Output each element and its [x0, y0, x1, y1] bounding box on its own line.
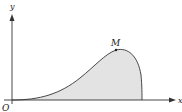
origin-label: O [2, 103, 10, 112]
point-m-marker [115, 49, 117, 51]
y-axis-label: y [9, 2, 15, 11]
shaded-region [12, 49, 142, 100]
function-graph: y x O M [0, 0, 182, 112]
y-axis-arrow-icon [10, 14, 15, 21]
point-m-label: M [110, 38, 121, 48]
x-axis-label: x [178, 96, 182, 105]
x-axis-arrow-icon [169, 98, 176, 103]
